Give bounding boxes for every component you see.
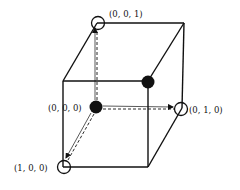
label-y-axis: (0, 1, 0) bbox=[189, 105, 223, 115]
arrow-x bbox=[66, 113, 91, 158]
label-origin: (0, 0, 0) bbox=[48, 103, 82, 113]
cube-diagram: (0, 0, 1) (0, 0, 0) (0, 1, 0) (1, 0, 0) bbox=[0, 0, 240, 190]
label-z-axis: (0, 0, 1) bbox=[109, 9, 143, 19]
edge-top-right-diagonal bbox=[148, 23, 184, 81]
cube-edges bbox=[63, 23, 184, 167]
vertex-origin-filled bbox=[90, 101, 103, 114]
edge-bottom-right-diagonal bbox=[148, 108, 182, 167]
arrow-x-dashed bbox=[68, 114, 94, 160]
edge-top-left-diagonal bbox=[63, 23, 97, 81]
label-x-axis: (1, 0, 0) bbox=[14, 163, 48, 173]
arrow-y bbox=[103, 106, 173, 107]
vertex-markers bbox=[58, 17, 188, 174]
edge-back-right bbox=[182, 23, 184, 108]
vertex-front-top-right-filled bbox=[142, 76, 155, 89]
